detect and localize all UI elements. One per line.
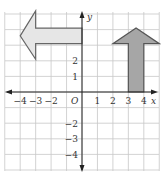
origin-label: O [71,96,79,106]
coordinate-plane: y x O −4−3−2123421−2−3−4 [0,0,161,174]
y-axis-bottom-arrowhead-icon [80,165,85,172]
shapes [20,11,159,92]
y-tick-label: 2 [72,56,78,66]
up-arrow-shape [113,28,159,92]
y-tick-label: −2 [65,119,78,129]
x-tick-label: 2 [110,96,116,106]
y-axis-top-arrowhead-icon [80,11,85,18]
x-tick-label: −4 [14,96,28,106]
y-axis-label: y [86,12,93,22]
x-tick-label: −2 [44,96,57,106]
x-tick-label: −3 [29,96,43,106]
x-axis-right-arrowhead-icon [151,90,158,95]
x-tick-label: 1 [95,96,101,106]
y-tick-label: −3 [65,134,79,144]
x-tick-label: 4 [141,96,147,106]
x-axis-label: x [151,96,156,106]
x-tick-label: 3 [125,96,131,106]
y-tick-label: −4 [65,150,79,160]
x-axis-left-arrowhead-icon [5,90,12,95]
y-tick-label: 1 [72,72,78,82]
